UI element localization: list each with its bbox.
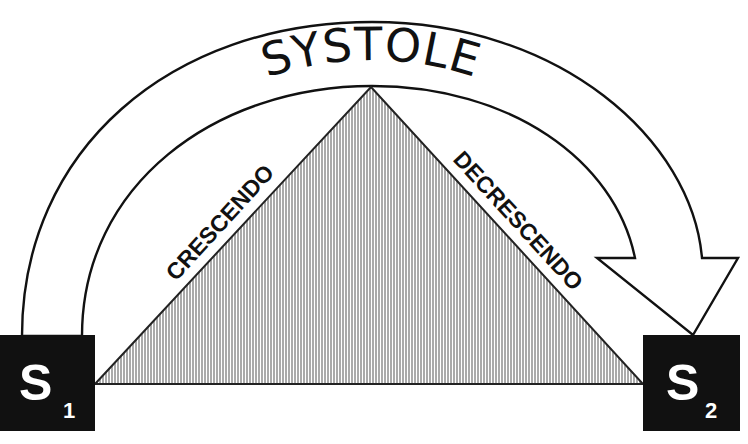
s2-heart-sound-box: S 2 bbox=[643, 335, 740, 431]
s1-subscript: 1 bbox=[63, 398, 75, 423]
s1-letter: S bbox=[19, 355, 52, 411]
s2-subscript: 2 bbox=[705, 398, 717, 423]
s1-heart-sound-box: S 1 bbox=[0, 335, 95, 431]
systole-diagram: SYSTOLE CRESCENDO DECRESCENDO S 1 S 2 bbox=[0, 0, 748, 444]
s2-letter: S bbox=[666, 355, 699, 411]
